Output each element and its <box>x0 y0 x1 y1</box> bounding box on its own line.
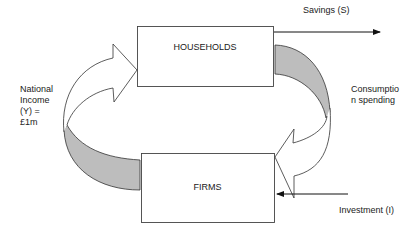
consumption-flow-arrow <box>275 45 330 198</box>
national-income-label-line-3: (Y) = <box>20 106 53 117</box>
savings-label: Savings (S) <box>303 5 350 16</box>
investment-label: Investment (I) <box>339 205 394 216</box>
households-label: HOUSEHOLDS <box>137 42 273 53</box>
circular-flow-diagram <box>0 0 417 234</box>
national-income-ribbon <box>64 125 140 190</box>
consumption-arrow-body <box>275 108 330 198</box>
national-income-arrow-body <box>63 44 137 132</box>
national-income-label-line-1: National <box>20 84 53 95</box>
national-income-label: National Income (Y) = £1m <box>20 84 53 128</box>
households-box <box>138 27 274 87</box>
national-income-flow-arrow <box>63 44 140 190</box>
consumption-label-line-1: Consumptio <box>351 84 399 95</box>
consumption-label-line-2: n spending <box>351 95 399 106</box>
consumption-label: Consumptio n spending <box>351 84 399 106</box>
national-income-label-line-4: £1m <box>20 117 53 128</box>
consumption-ribbon <box>275 45 330 118</box>
national-income-label-line-2: Income <box>20 95 53 106</box>
firms-label: FIRMS <box>141 182 274 193</box>
